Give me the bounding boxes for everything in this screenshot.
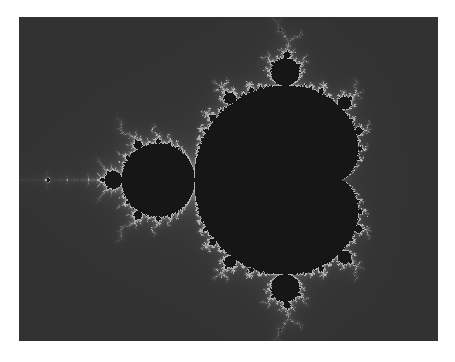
fractal-frame: Mandelbrot set fractal — [19, 17, 438, 341]
mandelbrot-set-image — [19, 17, 438, 341]
